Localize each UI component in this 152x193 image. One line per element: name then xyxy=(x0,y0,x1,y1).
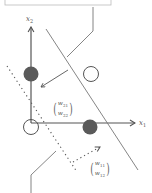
point-open-1-1 xyxy=(84,67,99,82)
paren-right: ) xyxy=(106,162,110,177)
point-filled-1-0 xyxy=(83,120,98,135)
y-axis-label-sub: 2 xyxy=(30,18,33,24)
vector-w2-bottom: w22 xyxy=(58,109,68,119)
vector-w1-label: ( w11 w12 ) xyxy=(89,159,111,179)
y-axis-label: x2 xyxy=(26,16,33,24)
x-axis-label-sub: 1 xyxy=(143,122,146,128)
paren-right: ) xyxy=(69,102,73,117)
vector-w1-top: w11 xyxy=(95,159,105,169)
paren-left: ( xyxy=(53,102,57,117)
top-box xyxy=(5,0,111,5)
vector-w1-bottom: w12 xyxy=(95,169,105,179)
vector-w2-top: w21 xyxy=(58,99,68,109)
diagram-canvas xyxy=(0,0,152,193)
leader-line-top xyxy=(67,7,93,57)
x-axis-label: x1 xyxy=(139,120,146,128)
leader-line-bottom xyxy=(31,151,56,193)
vector-w2-label: ( w21 w22 ) xyxy=(52,99,74,119)
paren-left: ( xyxy=(90,162,94,177)
weight-vector-w2-arrow xyxy=(41,70,68,87)
point-filled-0-1 xyxy=(24,67,39,82)
